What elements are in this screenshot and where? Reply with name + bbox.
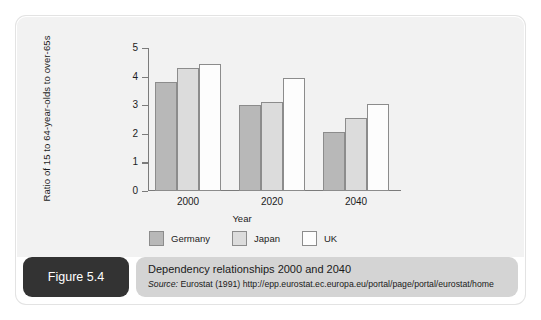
legend-swatch-germany (149, 231, 164, 246)
y-axis-title: Ratio of 15 to 64-year-olds to over-65s (41, 34, 52, 204)
bar-japan-2000 (177, 68, 199, 191)
y-axis-tick-label: 1 (120, 157, 138, 167)
legend-label-uk: UK (324, 233, 337, 244)
legend-swatch-uk (302, 231, 317, 246)
y-axis-tick-label: 3 (120, 100, 138, 110)
bar-germany-2040 (323, 132, 345, 191)
y-axis-tick-label: 2 (120, 129, 138, 139)
x-axis-tick-label: 2000 (166, 196, 210, 207)
x-axis-tick-label: 2020 (250, 196, 294, 207)
figure-number-badge: Figure 5.4 (23, 257, 129, 297)
bar-uk-2020 (283, 78, 305, 191)
source-text: Eurostat (1991) http://epp.eurostat.ec.e… (180, 279, 493, 289)
chart-panel: Ratio of 15 to 64-year-olds to over-65s … (17, 17, 524, 257)
chart-area: Ratio of 15 to 64-year-olds to over-65s … (17, 17, 524, 257)
caption-row: Figure 5.4 Dependency relationships 2000… (16, 257, 525, 304)
y-axis-tick-label: 5 (120, 43, 138, 53)
figure-card: Ratio of 15 to 64-year-olds to over-65s … (16, 16, 525, 304)
caption-title: Dependency relationships 2000 and 2040 (148, 263, 508, 277)
bar-japan-2020 (261, 102, 283, 191)
legend-item-germany: Germany (149, 231, 210, 246)
caption-box: Dependency relationships 2000 and 2040 S… (136, 257, 518, 297)
caption-source: Source: Eurostat (1991) http://epp.euros… (148, 279, 508, 289)
y-axis-tick-label: 4 (120, 72, 138, 82)
bar-japan-2040 (345, 118, 367, 191)
x-axis-title: Year (127, 213, 357, 224)
figure-number-label: Figure 5.4 (48, 270, 104, 284)
chart-legend: GermanyJapanUK (149, 231, 337, 246)
y-axis-tick (142, 162, 148, 163)
y-axis-tick (142, 134, 148, 135)
y-axis-tick (142, 105, 148, 106)
bars-layer (149, 48, 401, 191)
legend-item-uk: UK (302, 231, 337, 246)
legend-label-japan: Japan (254, 233, 280, 244)
legend-item-japan: Japan (232, 231, 280, 246)
x-axis-tick-label: 2040 (334, 196, 378, 207)
y-axis-tick (142, 48, 148, 49)
bar-uk-2040 (367, 104, 389, 191)
y-axis-tick (142, 191, 148, 192)
legend-label-germany: Germany (171, 233, 210, 244)
bar-germany-2020 (239, 105, 261, 191)
legend-swatch-japan (232, 231, 247, 246)
y-axis-tick-label: 0 (120, 186, 138, 196)
bar-uk-2000 (199, 64, 221, 191)
bar-germany-2000 (155, 82, 177, 191)
source-prefix: Source: (148, 279, 178, 289)
y-axis-tick (142, 77, 148, 78)
